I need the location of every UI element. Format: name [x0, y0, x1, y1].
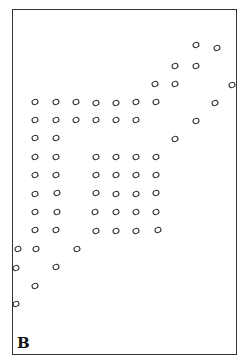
- panel-frame: [12, 9, 237, 355]
- panel-label: B: [17, 334, 30, 352]
